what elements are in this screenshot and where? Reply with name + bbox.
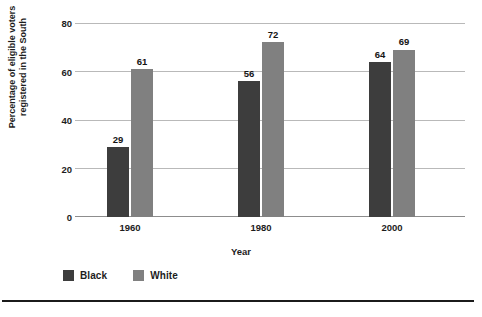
legend-label-white: White [150,270,178,281]
x-tick-2000: 2000 [362,222,422,233]
legend-swatch-black-icon [63,270,74,281]
y-tick-0: 0 [67,212,72,223]
legend-item-black: Black [63,270,107,281]
bar-2000-white [393,50,415,217]
bar-value-2000-white: 69 [393,36,415,47]
y-tick-60: 60 [61,66,72,77]
bar-value-1980-white: 72 [262,29,284,40]
y-axis-title-line2: registered in the South [18,0,29,147]
chart-legend: Black White [63,270,178,281]
legend-label-black: Black [80,270,107,281]
x-tick-1980: 1980 [231,222,291,233]
bar-1960-black [107,147,129,217]
bar-value-1960-white: 61 [131,56,153,67]
bar-1980-black [238,81,260,217]
legend-item-white: White [133,270,178,281]
bar-value-1980-black: 56 [238,68,260,79]
gridline-80 [75,23,465,24]
y-axis-tick-labels: 80 60 40 20 0 [52,23,72,217]
bar-value-2000-black: 64 [369,49,391,60]
bar-value-1960-black: 29 [107,134,129,145]
plot-area: 29 61 56 72 64 69 [75,23,465,217]
y-axis-title-line1: Percentage of eligible voters [7,0,18,147]
bar-chart-figure: 80 60 40 20 0 Percentage of eligible vot… [0,0,482,317]
x-axis-title: Year [0,246,482,257]
bar-1980-white [262,42,284,217]
bar-2000-black [369,62,391,217]
y-tick-40: 40 [61,115,72,126]
legend-swatch-white-icon [133,270,144,281]
y-tick-80: 80 [61,18,72,29]
y-axis-title: Percentage of eligible voters registered… [7,0,29,147]
bar-1960-white [131,69,153,217]
y-tick-20: 20 [61,163,72,174]
bottom-divider [2,300,474,302]
x-tick-1960: 1960 [100,222,160,233]
